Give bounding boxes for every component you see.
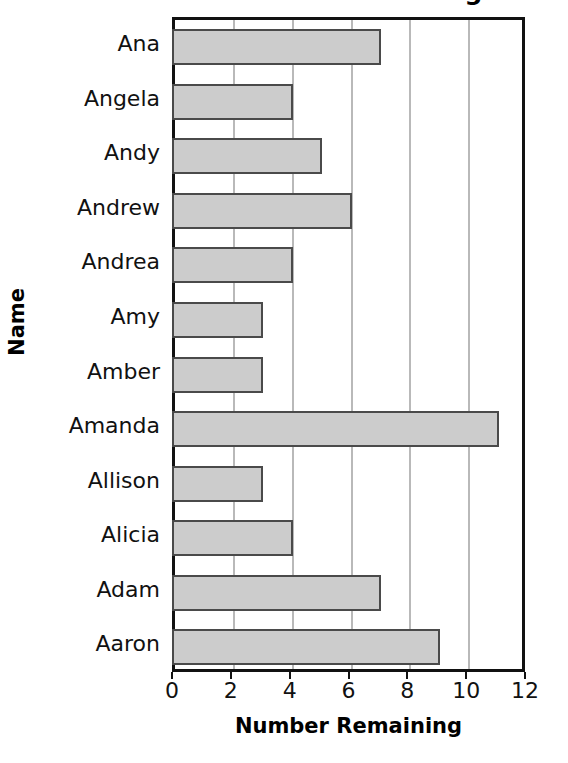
bar-row (175, 238, 522, 293)
bar[interactable] (172, 247, 293, 283)
bar[interactable] (172, 29, 381, 65)
y-axis-tick-label: Alicia (0, 508, 160, 563)
x-axis-title: Number Remaining (172, 714, 525, 738)
bar-row (175, 348, 522, 403)
bar[interactable] (172, 411, 499, 447)
y-axis-tick-label: Amber (0, 345, 160, 400)
bar-row (175, 620, 522, 675)
y-axis-tick-label: Andrew (0, 181, 160, 236)
x-axis-tick-label: 2 (201, 678, 261, 703)
bar[interactable] (172, 138, 322, 174)
y-axis-tick-label: Allison (0, 454, 160, 509)
y-axis-tick-label: Amy (0, 290, 160, 345)
x-axis-tick-label: 10 (436, 678, 496, 703)
y-axis-tick-labels: AnaAngelaAndyAndrewAndreaAmyAmberAmandaA… (0, 17, 166, 672)
bar-row (175, 129, 522, 184)
y-axis-tick-label: Adam (0, 563, 160, 618)
chart-title: Number Remaining (172, 0, 525, 6)
x-axis-tick-labels: 024681012 (172, 678, 525, 710)
bar-chart-figure: Number Remaining Name AnaAngelaAndyAndre… (0, 0, 568, 763)
bar-row (175, 402, 522, 457)
bar[interactable] (172, 629, 440, 665)
x-axis-tick-label: 0 (142, 678, 202, 703)
bar[interactable] (172, 193, 352, 229)
y-axis-tick-label: Ana (0, 17, 160, 72)
bar[interactable] (172, 575, 381, 611)
y-axis-tick-label: Amanda (0, 399, 160, 454)
bar[interactable] (172, 520, 293, 556)
plot-area (172, 17, 525, 672)
bar-row (175, 184, 522, 239)
x-axis-tick-label: 6 (319, 678, 379, 703)
bar[interactable] (172, 357, 263, 393)
bar-row (175, 566, 522, 621)
x-axis-tick-label: 4 (260, 678, 320, 703)
x-axis-tick-label: 12 (495, 678, 555, 703)
y-axis-tick-label: Angela (0, 72, 160, 127)
y-axis-tick-label: Andy (0, 126, 160, 181)
bar-row (175, 511, 522, 566)
y-axis-tick-label: Aaron (0, 617, 160, 672)
bar[interactable] (172, 84, 293, 120)
y-axis-tick-label: Andrea (0, 235, 160, 290)
bar-row (175, 20, 522, 75)
bar-row (175, 293, 522, 348)
bar-series (175, 20, 522, 669)
x-axis-tick-label: 8 (377, 678, 437, 703)
bar-row (175, 457, 522, 512)
bar[interactable] (172, 302, 263, 338)
bar[interactable] (172, 466, 263, 502)
bar-row (175, 75, 522, 130)
